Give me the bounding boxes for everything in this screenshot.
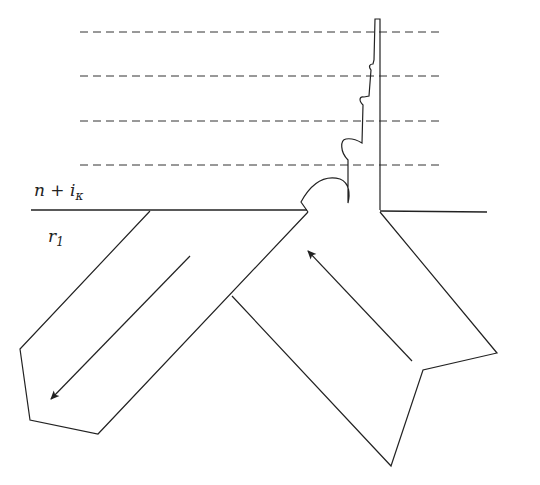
upper-medium-label: n + iκ xyxy=(34,180,83,200)
upper-medium-main: n + i xyxy=(34,180,75,200)
lower-medium-main: r xyxy=(48,226,56,246)
diagram-canvas xyxy=(0,0,540,485)
upper-medium-subscript: κ xyxy=(75,189,83,203)
lower-medium-subscript: 1 xyxy=(56,235,64,249)
incident-arrow xyxy=(308,251,412,361)
rising-plume xyxy=(301,19,380,212)
reflected-arrow xyxy=(51,256,190,399)
interface-line xyxy=(31,210,487,212)
lower-medium-label: r1 xyxy=(48,226,64,246)
dashed-levels xyxy=(80,32,440,165)
